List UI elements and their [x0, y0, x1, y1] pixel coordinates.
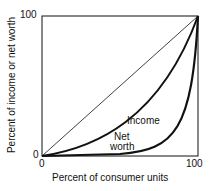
y-axis-label: Percent of income or net worth: [7, 5, 17, 165]
net-worth-label-2: worth: [110, 142, 134, 152]
x-tick-0: 0: [39, 159, 45, 169]
x-tick-100: 100: [186, 159, 203, 169]
x-axis-label: Percent of consumer units: [52, 173, 168, 183]
income-label: Income: [127, 116, 160, 126]
y-tick-100: 100: [20, 10, 37, 20]
lorenz-chart: [0, 0, 215, 191]
y-tick-0: 0: [33, 150, 39, 160]
